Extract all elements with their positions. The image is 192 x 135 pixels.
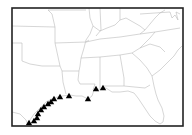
coastal-sites-map: [0, 0, 192, 135]
map-background: [0, 0, 192, 135]
